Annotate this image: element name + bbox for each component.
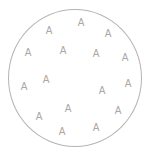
letter-a: A — [105, 29, 112, 39]
outer-circle — [8, 9, 142, 147]
letter-a: A — [93, 123, 100, 133]
letter-a: A — [93, 49, 100, 59]
letter-a: A — [125, 79, 132, 89]
letter-a: A — [43, 75, 50, 85]
letter-a: A — [115, 106, 122, 116]
letter-a: A — [36, 112, 43, 122]
letter-a: A — [78, 18, 85, 28]
letter-a: A — [99, 86, 106, 96]
letter-a: A — [60, 46, 67, 56]
letter-a: A — [65, 104, 72, 114]
letter-a: A — [21, 82, 28, 92]
letter-a: A — [46, 26, 53, 36]
letter-a: A — [59, 127, 66, 137]
letter-a: A — [25, 48, 32, 58]
letter-a: A — [122, 53, 129, 63]
